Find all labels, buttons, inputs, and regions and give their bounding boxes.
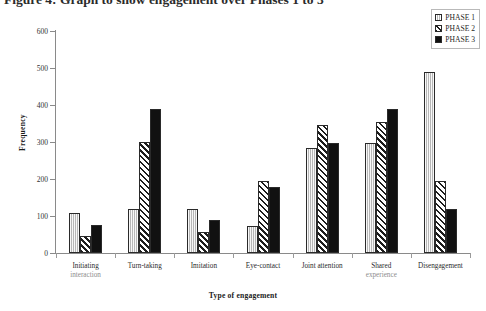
x-axis-tick <box>233 253 234 258</box>
y-axis-tick <box>50 31 55 32</box>
legend-item-label: PHASE 2 <box>445 24 475 33</box>
y-axis-tick <box>50 68 55 69</box>
y-axis-tick-label: 600 <box>2 27 48 36</box>
legend: PHASE 1PHASE 2PHASE 3 <box>431 9 480 49</box>
legend-swatch-light-vertical-hatch <box>435 14 442 21</box>
y-axis-title: Frequency <box>18 93 27 173</box>
bar-group <box>424 31 457 253</box>
y-axis-tick <box>50 105 55 106</box>
plot-area <box>56 31 470 253</box>
bar-p2 <box>317 125 328 253</box>
legend-item[interactable]: PHASE 3 <box>435 34 475 45</box>
legend-item[interactable]: PHASE 2 <box>435 23 475 34</box>
bar-p1 <box>306 148 317 253</box>
bar-group <box>306 31 339 253</box>
bar-p1 <box>187 209 198 253</box>
bar-p1 <box>128 209 139 253</box>
legend-item-label: PHASE 1 <box>445 13 475 22</box>
bar-p3 <box>269 187 280 253</box>
x-axis-tick <box>56 253 57 258</box>
legend-swatch-solid-black <box>435 36 442 43</box>
y-axis-tick <box>50 142 55 143</box>
x-axis-tick <box>470 253 471 258</box>
bar-chart: 6005004003002001000 Frequency Initiating… <box>0 0 486 311</box>
bar-p2 <box>258 181 269 253</box>
legend-item[interactable]: PHASE 1 <box>435 12 475 23</box>
x-axis-tick <box>115 253 116 258</box>
bar-p1 <box>247 226 258 253</box>
bar-group <box>187 31 220 253</box>
bar-p2 <box>198 232 209 253</box>
bar-group <box>128 31 161 253</box>
y-axis-tick <box>50 179 55 180</box>
x-axis-title: Type of engagement <box>0 291 486 300</box>
bar-p1 <box>365 143 376 253</box>
x-axis-tick <box>352 253 353 258</box>
x-axis-tick <box>411 253 412 258</box>
bar-p3 <box>328 143 339 253</box>
bar-p1 <box>69 213 80 253</box>
bar-p1 <box>424 72 435 253</box>
y-axis-tick-label: 0 <box>2 249 48 258</box>
y-axis-tick-label: 100 <box>2 212 48 221</box>
bar-p3 <box>446 209 457 253</box>
bar-p2 <box>139 142 150 253</box>
x-axis-category-label: Disengagement <box>405 262 476 271</box>
bar-p2 <box>80 236 91 253</box>
x-axis-tick <box>174 253 175 258</box>
x-axis-tick <box>293 253 294 258</box>
bar-p3 <box>91 225 102 253</box>
y-axis-tick-label: 200 <box>2 175 48 184</box>
y-axis-tick <box>50 253 55 254</box>
x-axis-line <box>55 253 471 254</box>
legend-item-label: PHASE 3 <box>445 35 475 44</box>
bar-group <box>247 31 280 253</box>
bar-group <box>69 31 102 253</box>
y-axis-tick-label: 500 <box>2 64 48 73</box>
y-axis-tick <box>50 216 55 217</box>
legend-swatch-diagonal-hatch <box>435 25 442 32</box>
bar-p3 <box>150 109 161 253</box>
bar-p3 <box>387 109 398 253</box>
bar-p2 <box>376 122 387 253</box>
bar-group <box>365 31 398 253</box>
bar-p3 <box>209 220 220 253</box>
bar-p2 <box>435 181 446 253</box>
